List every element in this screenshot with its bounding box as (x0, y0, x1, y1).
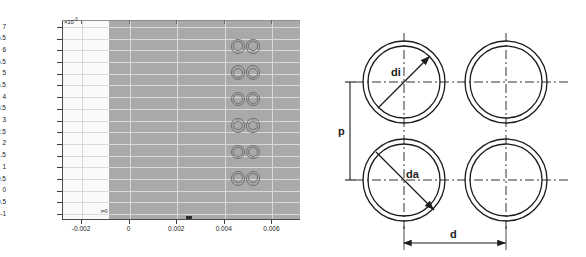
tube-marker (246, 92, 261, 107)
gridline-horizontal (63, 156, 300, 157)
tube-marker (246, 118, 261, 133)
x-axis-tick-mark-top (129, 20, 130, 24)
gridline-horizontal (63, 39, 300, 40)
tube-marker (246, 65, 261, 80)
y-axis-tick-mark (57, 156, 62, 157)
gridline-horizontal (63, 179, 300, 180)
tube-marker (231, 65, 246, 80)
scale-marker (186, 216, 192, 219)
tube-marker (246, 145, 261, 160)
x-axis-tick-mark (176, 220, 177, 224)
tube-marker (231, 118, 246, 133)
gridline-horizontal (63, 97, 300, 98)
tube-marker (246, 39, 261, 54)
y-axis-tick-label: 3.5 (0, 105, 6, 111)
x-axis-tick-mark (129, 220, 130, 224)
gridline-horizontal (63, 27, 300, 28)
y-axis-tick-label: -0.5 (0, 199, 6, 205)
x-axis-tick-label: 0.006 (251, 225, 291, 232)
tube-marker (231, 145, 246, 160)
y-axis-tick-label: 0 (0, 187, 6, 193)
centerlines (355, 33, 570, 229)
y-axis-tick-mark (57, 179, 62, 180)
y-axis-tick-label: 2.5 (0, 129, 6, 135)
y-axis-tick-mark (57, 74, 62, 75)
y-axis-tick-mark (57, 121, 62, 122)
outer-diameter-arrow (376, 152, 434, 210)
plot-top-border (62, 20, 300, 21)
gridline-horizontal (63, 85, 300, 86)
y-axis-tick-mark (57, 191, 62, 192)
gridline-horizontal (63, 214, 300, 215)
y-axis-tick-label: 4.5 (0, 82, 6, 88)
y-axis-tick-label: 6 (0, 47, 6, 53)
x-axis-tick-label: 0.002 (156, 225, 196, 232)
y-axis-exponent-label: ×10-3 (64, 17, 77, 25)
x-axis-tick-mark-top (176, 20, 177, 24)
tube-marker (231, 39, 246, 54)
y-axis-tick-label: 3 (0, 117, 6, 123)
x-axis-tick-label: 0.004 (204, 225, 244, 232)
vertical-pitch-label: p (338, 125, 345, 137)
x-axis-tick-mark (271, 220, 272, 224)
y-axis-tick-mark (57, 39, 62, 40)
y-axis-tick-label: 5 (0, 70, 6, 76)
tube-bundle-diagram: di da p d (320, 0, 586, 257)
x-axis-tick-mark-top (271, 20, 272, 24)
gridline-horizontal (63, 74, 300, 75)
y-axis-tick-mark (57, 27, 62, 28)
y-axis-tick-mark (57, 62, 62, 63)
tube-marker (246, 171, 261, 186)
gridline-horizontal (63, 132, 300, 133)
gridline-horizontal (63, 109, 300, 110)
simulation-plot-panel: ×10-3 t=0 -1-0.500.511.522.533.544.555.5… (0, 0, 310, 257)
inner-diameter-label: di (391, 66, 401, 78)
outer-diameter-label: da (406, 168, 420, 180)
x-axis-tick-label: 0 (109, 225, 149, 232)
y-axis-tick-label: 2 (0, 140, 6, 146)
y-axis-tick-label: 7 (0, 24, 6, 30)
y-axis-tick-label: 1.5 (0, 152, 6, 158)
x-axis-tick-mark (224, 220, 225, 224)
gridline-horizontal (63, 167, 300, 168)
y-axis-tick-mark (57, 50, 62, 51)
x-axis-tick-mark-top (224, 20, 225, 24)
tube-marker (231, 171, 246, 186)
x-axis-tick-label: -0.002 (61, 225, 101, 232)
y-axis-tick-label: -1 (0, 211, 6, 217)
y-axis-tick-mark (57, 144, 62, 145)
y-axis-tick-mark (57, 167, 62, 168)
gridline-horizontal (63, 202, 300, 203)
y-axis-tick-label: 4 (0, 94, 6, 100)
origin-annotation: t=0 (101, 208, 107, 214)
plot-area (62, 20, 300, 220)
y-axis-tick-mark (57, 85, 62, 86)
y-axis-tick-label: 0.5 (0, 176, 6, 182)
gridline-horizontal (63, 144, 300, 145)
y-axis-tick-mark (57, 202, 62, 203)
gridline-horizontal (63, 121, 300, 122)
y-axis-tick-mark (57, 109, 62, 110)
gridline-horizontal (63, 62, 300, 63)
x-axis-tick-mark-top (81, 20, 82, 24)
y-axis-tick-label: 5.5 (0, 59, 6, 65)
y-axis-tick-mark (57, 214, 62, 215)
y-axis-tick-mark (57, 97, 62, 98)
dimension-diagram-panel: di da p d (320, 0, 586, 257)
x-axis-tick-mark (81, 220, 82, 224)
y-axis-tick-label: 1 (0, 164, 6, 170)
gridline-horizontal (63, 191, 300, 192)
y-axis-tick-mark (57, 132, 62, 133)
horizontal-pitch-label: d (450, 228, 457, 240)
tube-marker (231, 92, 246, 107)
y-axis-tick-label: 6.5 (0, 35, 6, 41)
figure-root: ×10-3 t=0 -1-0.500.511.522.533.544.555.5… (0, 0, 586, 257)
gridline-horizontal (63, 50, 300, 51)
